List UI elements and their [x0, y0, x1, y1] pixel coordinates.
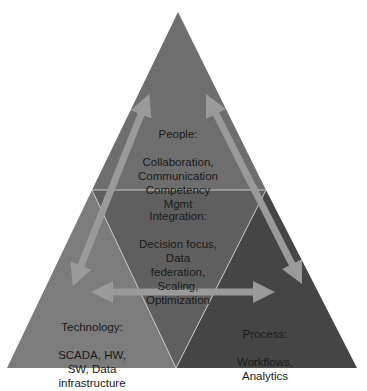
- people-title: People:: [128, 127, 228, 141]
- technology-label: Technology: SCADA, HW, SW, Data infrastr…: [52, 306, 132, 391]
- process-label: Process: Workflows, Analytics: [225, 313, 305, 391]
- technology-body: SCADA, HW, SW, Data infrastructure: [52, 348, 132, 390]
- process-title: Process:: [225, 327, 305, 341]
- integration-title: Integration:: [128, 209, 228, 223]
- integration-body: Decision focus, Data federation, Scaling…: [128, 237, 228, 307]
- integration-label: Integration: Decision focus, Data federa…: [128, 195, 228, 321]
- process-body: Workflows, Analytics: [225, 355, 305, 383]
- technology-title: Technology:: [52, 320, 132, 334]
